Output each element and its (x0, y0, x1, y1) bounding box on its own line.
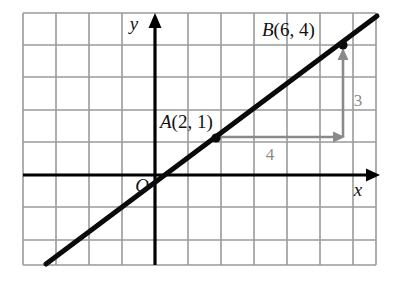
point-A-label: A(2, 1) (158, 111, 213, 133)
point-B-marker (338, 40, 347, 49)
point-A-marker (211, 133, 220, 142)
point-B-letter: B (262, 19, 274, 40)
point-B-coords: (6, 4) (274, 19, 315, 41)
x-axis-label: x (353, 179, 363, 200)
coordinate-plane-figure: y x O A(2, 1) B(6, 4) 4 3 (0, 0, 396, 281)
origin-label: O (135, 175, 149, 196)
rise-dimension-label: 3 (354, 91, 363, 110)
y-axis-label: y (128, 13, 139, 34)
point-B-label: B(6, 4) (262, 19, 315, 41)
point-A-coords: (2, 1) (172, 111, 213, 133)
run-dimension-label: 4 (266, 145, 275, 164)
point-A-letter: A (158, 111, 172, 132)
diagram-canvas: y x O A(2, 1) B(6, 4) 4 3 (0, 0, 396, 281)
